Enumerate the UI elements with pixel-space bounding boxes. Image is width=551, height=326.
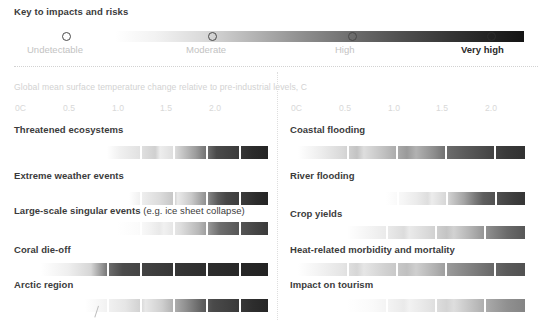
risk-bar-separator bbox=[140, 146, 142, 159]
legend-label-2: High bbox=[335, 44, 355, 55]
axis-tick: 0.5 bbox=[339, 103, 351, 113]
risk-bar-separator bbox=[140, 299, 142, 312]
risk-bar-separator bbox=[435, 299, 437, 312]
risk-bar-separator bbox=[445, 146, 447, 159]
risk-bar-separator bbox=[484, 226, 486, 239]
risk-bar-separator bbox=[386, 226, 388, 239]
risk-bar-separator bbox=[239, 263, 241, 276]
risk-bar-separator bbox=[445, 263, 447, 276]
row-label: Coral die-off bbox=[14, 244, 71, 255]
legend-marker-1 bbox=[208, 32, 217, 41]
risk-bar-separator bbox=[173, 222, 175, 235]
axis-tick: 1.0 bbox=[388, 103, 400, 113]
row-label: Coastal flooding bbox=[290, 124, 365, 135]
row-label: Heat-related morbidity and mortality bbox=[290, 244, 455, 255]
risk-bar-separator bbox=[206, 263, 208, 276]
risk-bar-gradient bbox=[41, 263, 268, 276]
risk-bar-separator bbox=[239, 146, 241, 159]
row-label: Large-scale singular events (e.g. ice sh… bbox=[14, 205, 245, 216]
risk-bar-separator bbox=[446, 192, 448, 205]
risk-bar-separator bbox=[347, 146, 349, 159]
row-label: River flooding bbox=[290, 170, 355, 181]
axis-note-left: Global mean surface temperature change r… bbox=[14, 82, 307, 92]
risk-bar-separator bbox=[173, 299, 175, 312]
axis-tick: 1.0 bbox=[112, 103, 124, 113]
risk-bar-separator bbox=[206, 299, 208, 312]
risk-bar bbox=[117, 222, 268, 235]
legend-divider bbox=[14, 66, 538, 67]
risk-bar-separator bbox=[239, 299, 241, 312]
axis-tick: 1.5 bbox=[160, 103, 172, 113]
legend-label-3: Very high bbox=[461, 44, 504, 55]
risk-bar-separator bbox=[347, 263, 349, 276]
legend-marker-3 bbox=[487, 32, 496, 41]
risk-bar-separator bbox=[107, 263, 109, 276]
risk-bar-separator bbox=[107, 299, 109, 312]
risk-bar-separator bbox=[206, 222, 208, 235]
legend-label-0: Undetectable bbox=[27, 44, 83, 55]
risk-bar-gradient bbox=[298, 263, 525, 276]
risk-bar-separator bbox=[239, 222, 241, 235]
risk-bar-gradient bbox=[298, 146, 525, 159]
risk-bar-separator bbox=[396, 263, 398, 276]
risk-bar bbox=[107, 146, 268, 159]
risk-bar-separator bbox=[206, 146, 208, 159]
axis-tick: 1.5 bbox=[436, 103, 448, 113]
risk-bar-separator bbox=[396, 146, 398, 159]
axis-tick: 2.0 bbox=[209, 103, 221, 113]
legend-gradient-bar bbox=[115, 31, 524, 42]
axis-tick: 0.5 bbox=[63, 103, 75, 113]
axis-tick: 0C bbox=[291, 103, 302, 113]
legend-label-1: Moderate bbox=[186, 44, 226, 55]
risk-bar bbox=[386, 192, 525, 205]
row-label: Extreme weather events bbox=[14, 170, 124, 181]
risk-bar bbox=[298, 146, 525, 159]
axis-tick: 0C bbox=[15, 103, 26, 113]
axis-tick: 2.0 bbox=[485, 103, 497, 113]
risk-bar-gradient bbox=[129, 192, 268, 205]
risk-bar-separator bbox=[173, 192, 175, 205]
risk-bar-separator bbox=[206, 192, 208, 205]
legend-marker-0 bbox=[62, 32, 71, 41]
risk-bar-separator bbox=[435, 226, 437, 239]
risk-bar-gradient bbox=[386, 192, 525, 205]
risk-bar-separator bbox=[484, 299, 486, 312]
risk-bar bbox=[298, 263, 525, 276]
column-divider bbox=[277, 72, 278, 320]
risk-bar bbox=[41, 263, 268, 276]
risk-bar-separator bbox=[239, 192, 241, 205]
risk-bar-separator bbox=[386, 299, 388, 312]
risk-key-chart: Key to impacts and risks UndetectableMod… bbox=[0, 0, 551, 326]
risk-bar-separator bbox=[140, 192, 142, 205]
risk-bar-separator bbox=[140, 263, 142, 276]
risk-bar-separator bbox=[494, 263, 496, 276]
risk-bar-separator bbox=[495, 192, 497, 205]
risk-bar-separator bbox=[173, 146, 175, 159]
legend-marker-2 bbox=[348, 32, 357, 41]
page-title: Key to impacts and risks bbox=[14, 6, 128, 17]
risk-bar bbox=[347, 299, 525, 312]
risk-bar-gradient bbox=[107, 146, 268, 159]
risk-bar bbox=[85, 299, 268, 312]
risk-bar-separator bbox=[173, 263, 175, 276]
row-label-sub: (e.g. ice sheet collapse) bbox=[143, 205, 245, 216]
row-label: Threatened ecosystems bbox=[14, 124, 123, 135]
risk-bar bbox=[129, 192, 268, 205]
row-label: Arctic region bbox=[14, 279, 73, 290]
risk-bar-separator bbox=[494, 146, 496, 159]
risk-bar bbox=[347, 226, 525, 239]
row-label: Impact on tourism bbox=[290, 279, 373, 290]
risk-bar-separator bbox=[397, 192, 399, 205]
row-label: Crop yields bbox=[290, 208, 342, 219]
risk-bar-separator bbox=[140, 222, 142, 235]
